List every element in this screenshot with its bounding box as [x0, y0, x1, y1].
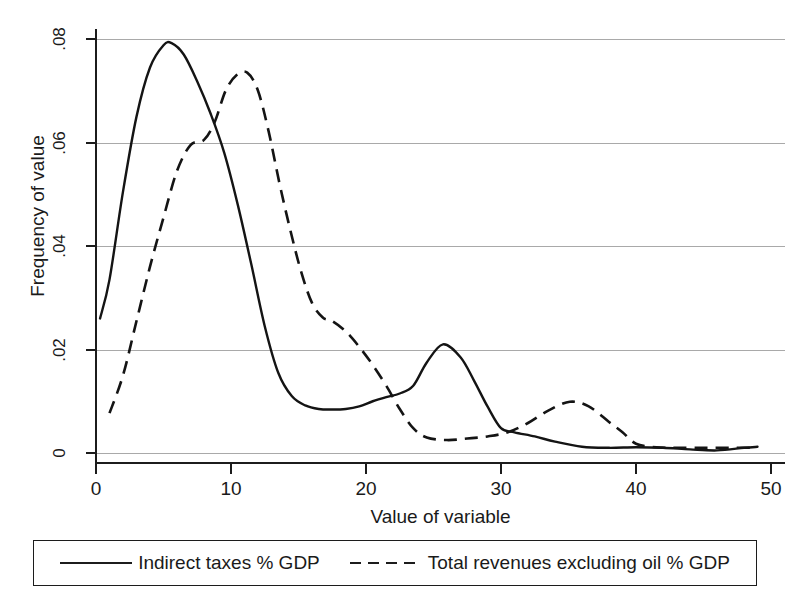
- gridline-y-0.06: [96, 143, 785, 144]
- gridline-y-0.04: [96, 246, 785, 247]
- x-axis-line: [95, 462, 785, 464]
- ytick-label-0.02: .02: [50, 330, 70, 370]
- xtick-label-0: 0: [66, 478, 126, 500]
- legend-solid-line-swatch: [60, 557, 132, 569]
- xtick-label-40: 40: [606, 478, 666, 500]
- legend-label-total-revenues: Total revenues excluding oil % GDP: [428, 552, 730, 574]
- density-plot-figure: .08 .06 .04 .02 0 Frequency of value 0 1…: [0, 0, 803, 601]
- xtick-mark-20: [365, 463, 367, 474]
- legend-dashed-line-swatch: [350, 557, 422, 569]
- x-axis-title: Value of variable: [96, 506, 785, 528]
- xtick-mark-40: [635, 463, 637, 474]
- xtick-label-50: 50: [741, 478, 801, 500]
- gridline-y-0.02: [96, 350, 785, 351]
- legend-entry-indirect-taxes: Indirect taxes % GDP: [60, 552, 320, 574]
- xtick-mark-50: [770, 463, 772, 474]
- ytick-label-0.08: .08: [50, 19, 70, 59]
- ytick-label-0.06: .06: [50, 123, 70, 163]
- ytick-label-0: 0: [50, 433, 70, 473]
- xtick-mark-30: [500, 463, 502, 474]
- xtick-label-30: 30: [471, 478, 531, 500]
- legend-box: Indirect taxes % GDP Total revenues excl…: [33, 540, 757, 586]
- xtick-mark-10: [230, 463, 232, 474]
- legend-label-indirect-taxes: Indirect taxes % GDP: [138, 552, 320, 574]
- legend-entry-total-revenues: Total revenues excluding oil % GDP: [350, 552, 730, 574]
- xtick-label-10: 10: [201, 478, 261, 500]
- series-line-total-revenues: [110, 71, 751, 447]
- y-axis-line: [95, 29, 97, 464]
- gridline-y-0: [96, 453, 785, 454]
- xtick-label-20: 20: [336, 478, 396, 500]
- y-axis-title: Frequency of value: [27, 96, 49, 336]
- xtick-mark-0: [95, 463, 97, 474]
- gridline-y-0.08: [96, 39, 785, 40]
- ytick-label-0.04: .04: [50, 226, 70, 266]
